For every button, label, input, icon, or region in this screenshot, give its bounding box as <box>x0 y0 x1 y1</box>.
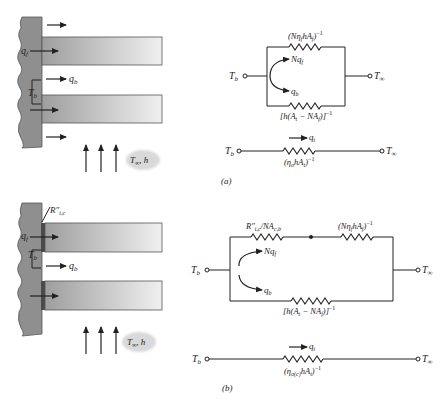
base-wall <box>18 203 42 336</box>
junction-node <box>309 235 313 239</box>
curved-arrow-icon <box>239 275 262 290</box>
tb-node <box>237 149 241 153</box>
overall-resistor-icon <box>283 356 323 362</box>
contact-resistance-label: R″t,c/NAc,b <box>245 221 281 232</box>
fin-resistor-icon <box>341 234 373 240</box>
fin-lower <box>45 281 162 310</box>
qb-label: qb <box>69 73 78 86</box>
fin-resistance-label: (NηfhAf)−1 <box>338 220 373 232</box>
tinf-node <box>416 268 420 272</box>
tinf-label: T∞ <box>422 264 433 277</box>
tinf-label: T∞ <box>422 353 433 366</box>
fin-resistor-icon <box>289 44 321 50</box>
curved-arrow-icon <box>270 59 289 76</box>
caption-b: (b) <box>222 383 233 393</box>
fin-resistance-label: (NηfhAf)−1 <box>288 30 323 42</box>
panel-b-parallel-circuit: Tb T∞ Nqf qb R″t,c/NAc,b (NηfhAf)−1 [h(A… <box>191 220 433 317</box>
tb-node <box>205 268 209 272</box>
qt-label: qt <box>309 341 316 352</box>
curved-arrow-icon <box>239 251 262 266</box>
nqf-label: Nqf <box>263 246 278 257</box>
contact-resistor-icon <box>251 234 283 240</box>
caption-a: (a) <box>221 176 232 186</box>
qt-label: qt <box>309 132 316 143</box>
qb-label: qb <box>264 285 272 296</box>
panel-a-series-circuit: Tb T∞ qt (ηohAt)−1 (a) <box>221 132 397 186</box>
tb-node <box>205 357 209 361</box>
base-resistor-icon <box>289 103 321 109</box>
qb-label: qb <box>291 86 299 97</box>
base-wall <box>18 17 42 148</box>
fin-array-thermal-circuit-figure: qf qb Tb T∞, h Tb T∞ Nqf qb (NηfhA <box>0 0 445 405</box>
tb-label: Tb <box>192 353 202 366</box>
rtc-label: R″t,c <box>49 205 65 216</box>
curved-arrow-icon <box>270 76 289 91</box>
tinf-node <box>368 74 372 78</box>
tinf-label: T∞ <box>374 70 385 83</box>
panel-b-series-circuit: Tb T∞ qt (ηo(c)hAt)−1 (b) <box>192 341 433 393</box>
tb-label: Tb <box>191 264 201 277</box>
panel-a-parallel-circuit: Tb T∞ Nqf qb (NηfhAf)−1 [h(At − NAf)]−1 <box>229 30 385 122</box>
fin-upper <box>45 223 162 252</box>
tb-node <box>243 74 247 78</box>
fluid-conditions-label: T∞, h <box>127 337 146 348</box>
fin-lower <box>42 95 162 123</box>
base-resistance-label: [h(At − NAf)]−1 <box>280 110 332 122</box>
panel-a-fin-array: qf qb Tb T∞, h <box>18 17 162 172</box>
panel-b-fin-array: R″t,c qf qb Tb T∞, h <box>18 203 162 354</box>
tb-label: Tb <box>225 145 235 158</box>
overall-resistance-label: (ηohAt)−1 <box>284 156 314 168</box>
tb-label: Tb <box>229 70 239 83</box>
nqf-label: Nqf <box>290 54 305 65</box>
fin-upper <box>42 37 162 65</box>
rtc-leader <box>42 207 50 222</box>
overall-resistor-icon <box>283 148 315 154</box>
tinf-label: T∞ <box>386 145 397 158</box>
tinf-node <box>416 357 420 361</box>
qb-label: qb <box>69 260 78 273</box>
tinf-node <box>380 149 384 153</box>
base-resistance-label: [h(At − NAf)]−1 <box>283 305 335 317</box>
overall-resistance-label: (ηo(c)hAt)−1 <box>284 365 321 378</box>
base-resistor-icon <box>291 298 331 304</box>
fluid-conditions-label: T∞, h <box>130 155 149 166</box>
